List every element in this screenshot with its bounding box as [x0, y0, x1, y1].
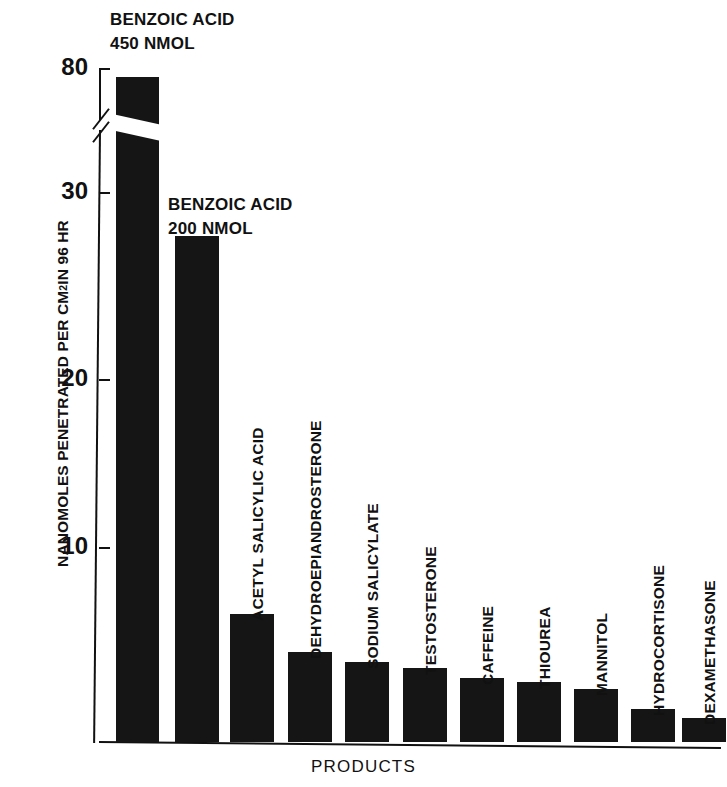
y-axis-title-prefix: NANOMOLES PENETRATED PER CM [54, 291, 72, 567]
y-axis-title-suffix: IN 96 HR [54, 220, 72, 285]
bar-benzoic-acid-450 [116, 77, 159, 742]
bar-label-acetyl-salicylic-acid: ACETYL SALICYLIC ACID [249, 427, 267, 621]
bar-thiourea [517, 682, 561, 742]
bar-chart-figure: NANOMOLES PENETRATED PER CM2 IN 96 HR 80… [0, 0, 727, 787]
bar-benzoic-acid-200 [175, 236, 219, 742]
bar-label-dehydroepiandrosterone: DEHYDROEPIANDROSTERONE [307, 420, 325, 659]
bar-label-mannitol: MANNITOL [593, 613, 611, 696]
x-axis-title: PRODUCTS [0, 757, 727, 777]
bar-label-caffeine: CAFFEINE [479, 606, 497, 685]
bar-caffeine [460, 678, 504, 742]
bar-acetyl-salicylic-acid [230, 614, 274, 742]
y-axis-tick-80 [99, 68, 110, 70]
y-axis-tick-label-80: 80 [18, 53, 88, 81]
y-axis-title-superscript: 2 [57, 285, 69, 291]
y-axis-title: NANOMOLES PENETRATED PER CM2 IN 96 HR [42, 0, 84, 787]
bar-mannitol [574, 689, 618, 742]
bar-label-sodium-salicylate: SODIUM SALICYLATE [364, 503, 382, 669]
bar-testosterone [403, 668, 447, 742]
x-axis-line [99, 741, 721, 749]
y-axis-tick-20 [99, 379, 110, 381]
annotation-benzoic-450: BENZOIC ACID 450 NMOL [110, 8, 235, 56]
y-axis-line-upper [99, 68, 101, 120]
bar-label-testosterone: TESTOSTERONE [422, 546, 440, 675]
annotation-benzoic-200: BENZOIC ACID 200 NMOL [168, 193, 293, 241]
y-axis-tick-30 [99, 192, 110, 194]
bar-label-thiourea: THIOUREA [536, 606, 554, 689]
bar-label-dexamethasone: DEXAMETHASONE [701, 580, 719, 725]
axis-break-slash-upper [92, 108, 110, 130]
y-axis-tick-label-30: 30 [18, 177, 88, 205]
bar-sodium-salicylate [345, 662, 389, 742]
bar-label-hydrocortisone: HYDROCORTISONE [650, 565, 668, 716]
y-axis-tick-10 [99, 547, 110, 549]
y-axis-line-lower [93, 130, 101, 743]
y-axis-tick-label-20: 20 [18, 364, 88, 392]
y-axis-tick-label-10: 10 [18, 532, 88, 560]
bar-dehydroepiandrosterone [288, 652, 332, 742]
